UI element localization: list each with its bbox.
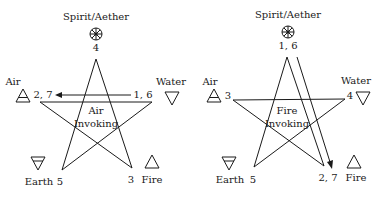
direction-arrow	[55, 92, 131, 98]
vertex-number-top: 4	[93, 42, 99, 53]
pentagram-diagrams: Spirit/Aether 4 Air 2, 7 Water 1, 6 Air	[0, 0, 392, 199]
earth-triangle-icon	[31, 157, 45, 170]
spirit-wheel-icon	[282, 26, 294, 38]
vertex-number-right: 1, 6	[133, 89, 152, 100]
water-triangle-icon	[165, 92, 179, 105]
air-invoking-pentagram: Spirit/Aether 4 Air 2, 7 Water 1, 6 Air	[4, 11, 186, 187]
vertex-number-top: 1, 6	[278, 40, 297, 51]
spirit-label: Spirit/Aether	[63, 11, 129, 22]
fire-label: Fire	[346, 172, 367, 183]
fire-invoking-pentagram: Spirit/Aether 1, 6 Air 3 Water 4 Fire In	[201, 9, 371, 185]
title-line-2: Invoking	[265, 118, 310, 129]
title-line-1: Fire	[277, 105, 298, 116]
fire-triangle-icon	[145, 155, 159, 168]
vertex-number-bottom-left: 5	[250, 174, 256, 185]
title-line-1: Air	[87, 105, 103, 116]
spirit-label: Spirit/Aether	[255, 9, 321, 20]
fire-label: Fire	[142, 174, 163, 185]
air-label: Air	[201, 76, 217, 87]
air-triangle-icon	[207, 89, 221, 102]
fire-triangle-icon	[347, 155, 361, 168]
water-label: Water	[156, 76, 186, 87]
earth-label: Earth	[25, 176, 54, 187]
title-line-2: Invoking	[74, 118, 119, 129]
vertex-number-bottom-right: 2, 7	[318, 172, 337, 183]
direction-arrow	[297, 57, 333, 169]
earth-triangle-icon	[222, 157, 236, 170]
water-triangle-icon	[356, 92, 370, 105]
earth-label: Earth	[216, 174, 245, 185]
vertex-number-left: 3	[225, 90, 231, 101]
vertex-number-right: 4	[347, 90, 353, 101]
air-label: Air	[4, 76, 20, 87]
vertex-number-bottom-left: 5	[57, 176, 63, 187]
vertex-number-left: 2, 7	[33, 89, 52, 100]
vertex-number-bottom-right: 3	[128, 174, 134, 185]
air-triangle-icon	[16, 89, 30, 102]
spirit-wheel-icon	[90, 28, 102, 40]
water-label: Water	[341, 75, 371, 86]
